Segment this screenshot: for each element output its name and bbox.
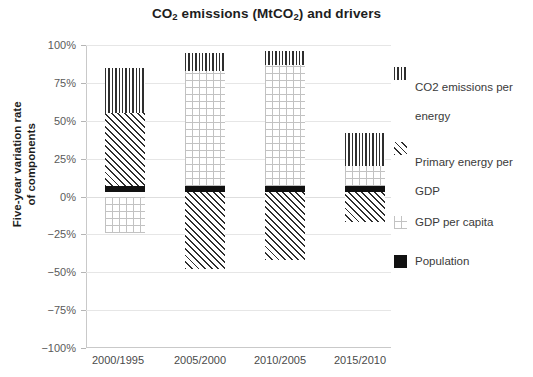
- bar-segment: [345, 166, 385, 186]
- x-tick-label-2000-1995: 2000/1995: [92, 354, 144, 366]
- bar-segment: [185, 186, 225, 192]
- y-tick-mark: [81, 45, 86, 46]
- bar-segment: [185, 53, 225, 71]
- chart-title-sub-1: 2: [172, 11, 177, 22]
- y-tick-mark: [81, 83, 86, 84]
- y-tick-label: 75%: [24, 77, 76, 89]
- legend-co2-line-1: CO2 emissions per: [415, 81, 513, 93]
- bar-group-2015-2010: [345, 45, 385, 348]
- chart-figure: CO2 emissions (MtCO2) and drivers Five-y…: [0, 0, 533, 377]
- bar-segment: [265, 51, 305, 65]
- y-tick-label: −100%: [24, 342, 76, 354]
- y-tick-mark: [81, 348, 86, 349]
- legend-energy-line-2: GDP: [415, 185, 440, 197]
- y-tick-label: 25%: [24, 153, 76, 165]
- bar-segment: [185, 192, 225, 269]
- legend-item-gdp-per-capita: GDP per capita: [394, 215, 533, 237]
- chart-title-post: ) and drivers: [299, 6, 381, 21]
- bar-segment: [105, 186, 145, 192]
- y-tick-mark: [81, 272, 86, 273]
- chart-title-sub-2: 2: [293, 11, 298, 22]
- bar-group-2010-2005: [265, 45, 305, 348]
- crosshatch-swatch-icon: [394, 216, 407, 229]
- bar-segment: [185, 71, 225, 186]
- y-axis-tick-labels: 100% 75% 50% 25% 0% −25% −50% −75% −100%: [20, 45, 76, 348]
- bar-segment: [265, 192, 305, 260]
- y-tick-label: 0%: [24, 191, 76, 203]
- solid-black-swatch-icon: [394, 255, 407, 268]
- y-tick-mark: [81, 159, 86, 160]
- bar-group-2005-2000: [185, 45, 225, 348]
- bar-segment: [345, 192, 385, 222]
- chart-title-mid: emissions (MtCO: [178, 6, 294, 21]
- vertical-lines-swatch-icon: [394, 67, 407, 80]
- plot-area: [86, 45, 391, 348]
- legend-label-energy-per-gdp: Primary energy per GDP: [415, 141, 513, 199]
- x-tick-label-2005-2000: 2005/2000: [174, 354, 226, 366]
- y-tick-mark: [81, 310, 86, 311]
- y-tick-mark: [81, 197, 86, 198]
- y-tick-mark: [81, 121, 86, 122]
- y-tick-label: 100%: [24, 39, 76, 51]
- bar-segment: [105, 113, 145, 186]
- bar-segment: [265, 65, 305, 186]
- chart-legend: CO2 emissions per energy Primary energy …: [394, 66, 533, 293]
- legend-label-co2-per-energy: CO2 emissions per energy: [415, 66, 513, 124]
- legend-item-co2-per-energy: CO2 emissions per energy: [394, 66, 533, 124]
- x-tick-label-2010-2005: 2010/2005: [254, 354, 306, 366]
- bar-segment: [105, 197, 145, 233]
- bar-group-2000-1995: [105, 45, 145, 348]
- chart-title-pre: CO: [152, 6, 172, 21]
- y-tick-label: −75%: [24, 304, 76, 316]
- y-tick-mark: [81, 234, 86, 235]
- bar-segment: [105, 68, 145, 113]
- y-tick-label: −25%: [24, 228, 76, 240]
- chart-title: CO2 emissions (MtCO2) and drivers: [0, 6, 533, 21]
- diagonal-lines-swatch-icon: [394, 142, 407, 155]
- bar-segment: [265, 186, 305, 192]
- legend-co2-line-2: energy: [415, 110, 450, 122]
- legend-label-population: Population: [415, 254, 469, 268]
- bar-segment: [345, 186, 385, 192]
- x-tick-label-2015-2010: 2015/2010: [334, 354, 386, 366]
- legend-item-population: Population: [394, 254, 533, 276]
- y-axis-title-wrapper: Five-year variation rate of components: [0, 0, 20, 377]
- y-tick-label: 50%: [24, 115, 76, 127]
- legend-label-gdp-per-capita: GDP per capita: [415, 215, 493, 229]
- legend-item-energy-per-gdp: Primary energy per GDP: [394, 141, 533, 199]
- legend-energy-line-1: Primary energy per: [415, 156, 513, 168]
- y-tick-label: −50%: [24, 266, 76, 278]
- bar-segment: [345, 133, 385, 166]
